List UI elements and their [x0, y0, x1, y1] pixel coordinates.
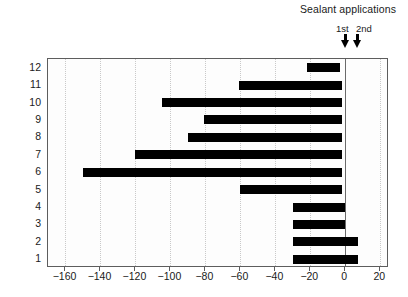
chart-canvas: Sealant applications 1st 2nd No. of case…: [0, 0, 408, 297]
x-tick-label: −120: [123, 270, 147, 282]
gridline: [240, 59, 241, 266]
plot-area: [47, 58, 388, 267]
bar-case-7: [135, 150, 341, 159]
y-tick-label: 12: [19, 61, 41, 73]
gridline: [65, 59, 66, 266]
down-arrow-icon-1st: [341, 34, 350, 48]
y-tick-label: 4: [19, 200, 41, 212]
y-tick-label: 9: [19, 113, 41, 125]
x-tick-label: −80: [195, 270, 213, 282]
bar-case-9: [204, 115, 342, 124]
bar-case-8: [188, 133, 342, 142]
bar-case-5: [240, 185, 341, 194]
y-tick-label: 10: [19, 96, 41, 108]
down-arrow-icon-2nd: [353, 34, 362, 48]
x-tick-label: −60: [230, 270, 248, 282]
bar-case-2: [293, 237, 358, 246]
marker-label-2nd: 2nd: [356, 23, 372, 34]
x-tick-label: 0: [341, 270, 347, 282]
y-tick-label: 1: [19, 252, 41, 264]
zero-reference-line: [345, 59, 346, 266]
gridline: [100, 59, 101, 266]
bar-case-11: [239, 81, 342, 90]
y-tick-label: 8: [19, 130, 41, 142]
gridline: [275, 59, 276, 266]
bar-case-3: [293, 220, 345, 229]
x-tick-label: −100: [158, 270, 182, 282]
bar-case-6: [83, 168, 342, 177]
x-tick-label: −40: [265, 270, 283, 282]
x-tick-label: 20: [373, 270, 385, 282]
gridline: [135, 59, 136, 266]
gridline: [205, 59, 206, 266]
gridline: [310, 59, 311, 266]
bar-case-4: [293, 203, 345, 212]
y-tick-label: 5: [19, 183, 41, 195]
y-tick-label: 3: [19, 217, 41, 229]
x-tick-label: −140: [88, 270, 112, 282]
y-tick-label: 6: [19, 165, 41, 177]
x-tick-label: −160: [53, 270, 77, 282]
y-tick-label: 7: [19, 148, 41, 160]
gridline: [170, 59, 171, 266]
marker-label-1st: 1st: [336, 23, 349, 34]
bar-case-10: [162, 98, 342, 107]
y-tick-label: 2: [19, 235, 41, 247]
bar-case-12: [307, 63, 340, 72]
y-tick-label: 11: [19, 78, 41, 90]
gridline: [380, 59, 381, 266]
x-tick-label: −20: [300, 270, 318, 282]
sealant-applications-title: Sealant applications: [300, 3, 396, 15]
bar-case-1: [293, 255, 358, 264]
